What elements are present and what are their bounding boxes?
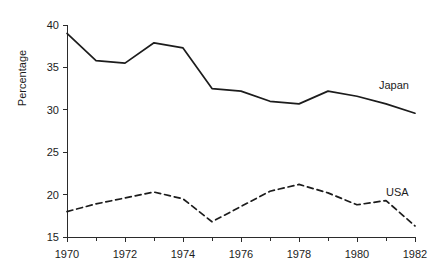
x-tick-label: 1978 (287, 248, 311, 260)
x-tick-label: 1972 (113, 248, 137, 260)
chart-canvas: 152025303540 197019721974197619781980198… (0, 0, 444, 276)
y-tick-label: 30 (47, 104, 59, 116)
y-tick-label: 20 (47, 189, 59, 201)
x-tick-label: 1976 (229, 248, 253, 260)
series-group (67, 33, 415, 226)
x-tick-label: 1982 (403, 248, 427, 260)
line-chart: 152025303540 197019721974197619781980198… (0, 0, 444, 276)
series-line-usa (67, 184, 415, 226)
y-tick-label: 40 (47, 19, 59, 31)
y-axis-title: Percentage (16, 50, 28, 106)
y-tick-group: 152025303540 (47, 19, 67, 243)
y-tick-label: 25 (47, 146, 59, 158)
y-axis-group: 152025303540 (47, 19, 67, 243)
x-tick-group: 1970197219741976197819801982 (55, 237, 427, 260)
y-tick-label: 15 (47, 231, 59, 243)
series-label-group: JapanUSA (379, 79, 409, 198)
x-axis-group: 1970197219741976197819801982 (55, 237, 427, 260)
x-tick-label: 1970 (55, 248, 79, 260)
series-label-usa: USA (386, 186, 409, 198)
series-line-japan (67, 33, 415, 113)
series-label-japan: Japan (379, 79, 409, 91)
x-tick-label: 1974 (171, 248, 195, 260)
y-tick-label: 35 (47, 61, 59, 73)
x-tick-label: 1980 (345, 248, 369, 260)
